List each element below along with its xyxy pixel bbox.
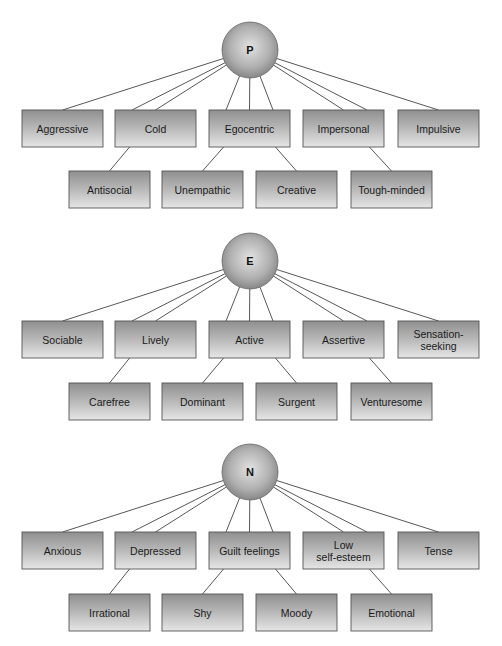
node-impersonal-label: Impersonal <box>318 123 370 135</box>
node-tough-minded-label: Tough-minded <box>358 184 425 196</box>
node-moody-label: Moody <box>281 607 313 619</box>
node-shy-label: Shy <box>193 607 212 619</box>
node-impulsive-label: Impulsive <box>416 123 461 135</box>
node-irrational-label: Irrational <box>89 607 130 619</box>
link-e-sociable <box>63 270 224 321</box>
link-e-lively <box>156 276 227 321</box>
node-active: Active <box>209 321 290 358</box>
link-n-depressed <box>156 487 227 532</box>
node-depressed-label: Depressed <box>130 545 181 557</box>
node-shy: Shy <box>162 594 243 631</box>
link-lively-carefree <box>110 358 130 383</box>
link-n-emotional-upper <box>275 485 367 532</box>
node-surgent-label: Surgent <box>278 396 315 408</box>
link-assertive-venturesome <box>369 358 391 383</box>
node-carefree-label: Carefree <box>89 396 130 408</box>
node-lively: Lively <box>115 321 196 358</box>
node-emotional-label: Emotional <box>368 607 415 619</box>
node-egocentric: Egocentric <box>209 110 290 147</box>
link-n-tense <box>277 480 439 532</box>
node-anxious-label: Anxious <box>44 545 81 557</box>
node-dominant-label: Dominant <box>180 396 225 408</box>
link-impersonal-tough-minded <box>369 147 391 171</box>
link-p-impulsive <box>277 58 439 110</box>
node-antisocial: Antisocial <box>69 171 150 208</box>
node-sensation-seeking-label-1: Sensation- <box>413 328 464 340</box>
hub-e: E <box>222 233 278 289</box>
node-egocentric-label: Egocentric <box>225 123 275 135</box>
link-guilt-feelings-moody <box>275 569 296 594</box>
link-p-impersonal <box>274 65 344 110</box>
node-dominant: Dominant <box>162 383 243 420</box>
node-creative-label: Creative <box>277 184 316 196</box>
node-moody: Moody <box>256 594 337 631</box>
link-egocentric-creative <box>275 147 296 171</box>
node-antisocial-label: Antisocial <box>87 184 132 196</box>
link-n-shy-upper <box>226 498 240 532</box>
link-active-dominant <box>203 358 224 383</box>
node-low-self-esteem-label-1: Low <box>334 539 354 551</box>
node-unempathic-label: Unempathic <box>174 184 230 196</box>
node-lively-label: Lively <box>142 334 170 346</box>
node-sensation-seeking: Sensation-seeking <box>398 321 479 358</box>
link-p-creative-upper <box>260 76 273 110</box>
node-impulsive: Impulsive <box>398 110 479 147</box>
node-emotional: Emotional <box>351 594 432 631</box>
node-low-self-esteem: Lowself-esteem <box>303 532 384 569</box>
link-active-surgent <box>275 358 296 383</box>
node-tough-minded: Tough-minded <box>351 171 432 208</box>
hub-p: P <box>222 22 278 78</box>
link-n-anxious <box>63 481 224 532</box>
node-low-self-esteem-label-2: self-esteem <box>316 551 371 563</box>
personality-hierarchy-diagram: AggressiveColdEgocentricImpersonalImpuls… <box>0 0 502 646</box>
node-tense-label: Tense <box>424 545 452 557</box>
node-venturesome: Venturesome <box>351 383 432 420</box>
node-cold: Cold <box>115 110 196 147</box>
link-depressed-irrational <box>110 569 130 594</box>
node-creative: Creative <box>256 171 337 208</box>
nodes-layer: AggressiveColdEgocentricImpersonalImpuls… <box>22 22 479 631</box>
node-guilt-feelings-label: Guilt feelings <box>219 545 280 557</box>
node-sociable-label: Sociable <box>42 334 82 346</box>
node-anxious: Anxious <box>22 532 103 569</box>
node-active-label: Active <box>235 334 264 346</box>
hub-e-label: E <box>246 255 253 267</box>
link-p-tough-minded-upper <box>275 63 367 110</box>
node-assertive-label: Assertive <box>322 334 365 346</box>
node-aggressive-label: Aggressive <box>37 123 89 135</box>
link-e-carefree-upper <box>132 274 225 321</box>
link-low-self-esteem-emotional <box>369 569 391 594</box>
node-guilt-feelings: Guilt feelings <box>209 532 290 569</box>
node-surgent: Surgent <box>256 383 337 420</box>
hub-n-label: N <box>246 466 254 478</box>
link-p-unempathic-upper <box>226 76 240 110</box>
link-cold-antisocial <box>110 147 130 171</box>
node-sensation-seeking-label-2: seeking <box>420 340 456 352</box>
link-e-assertive <box>274 276 344 321</box>
link-egocentric-unempathic <box>203 147 224 171</box>
link-p-aggressive <box>63 59 224 110</box>
node-cold-label: Cold <box>145 123 167 135</box>
node-sociable: Sociable <box>22 321 103 358</box>
hub-n: N <box>222 444 278 500</box>
node-assertive: Assertive <box>303 321 384 358</box>
hub-p-label: P <box>246 44 253 56</box>
link-e-sensation-seeking <box>277 269 439 321</box>
node-tense: Tense <box>398 532 479 569</box>
link-e-venturesome-upper <box>275 274 367 321</box>
link-e-surgent-upper <box>260 287 273 321</box>
node-aggressive: Aggressive <box>22 110 103 147</box>
node-depressed: Depressed <box>115 532 196 569</box>
node-irrational: Irrational <box>69 594 150 631</box>
link-n-moody-upper <box>260 498 273 532</box>
node-impersonal: Impersonal <box>303 110 384 147</box>
link-n-irrational-upper <box>132 485 225 532</box>
node-venturesome-label: Venturesome <box>361 396 423 408</box>
link-p-cold <box>156 65 227 110</box>
link-guilt-feelings-shy <box>203 569 224 594</box>
node-unempathic: Unempathic <box>162 171 243 208</box>
node-carefree: Carefree <box>69 383 150 420</box>
link-n-low-self-esteem <box>274 487 344 532</box>
link-e-dominant-upper <box>226 287 240 321</box>
link-p-antisocial-upper <box>132 63 225 110</box>
